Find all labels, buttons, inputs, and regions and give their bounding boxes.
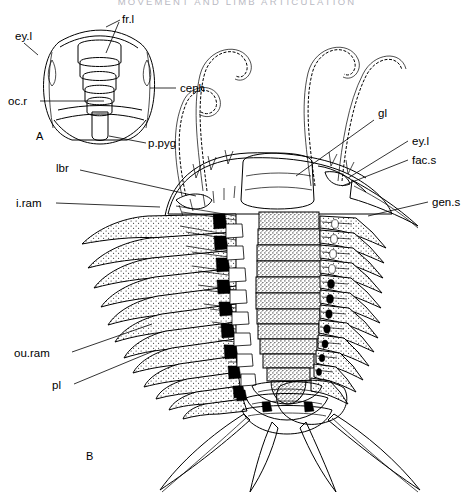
leader-iram: [56, 203, 160, 207]
fig-a-leaders: [24, 20, 176, 143]
label-fr-l: fr.l: [122, 13, 134, 25]
label-oc-r: oc.r: [8, 95, 27, 107]
leader-eyl-b: [348, 141, 408, 178]
plate-page: MOVEMENT AND LIMB ARTICULATION: [0, 0, 474, 499]
figure-plate: fr.l ey.l ceph oc.r p.pyg A: [0, 0, 474, 499]
cephalic-bristles: [193, 150, 354, 178]
label-fac-s: fac.s: [412, 154, 437, 166]
leader-gl: [296, 120, 374, 176]
figure-b-id: B: [86, 450, 93, 462]
figure-a: fr.l ey.l ceph oc.r p.pyg A: [8, 13, 205, 149]
left-appendage-field: [82, 186, 256, 419]
right-appendage-field: [311, 216, 386, 404]
figure-a-id: A: [36, 130, 44, 142]
label-pl: pl: [52, 379, 61, 391]
label-lbr: lbr: [56, 162, 69, 174]
leader-frl: [106, 20, 120, 27]
leader-eyl: [24, 43, 38, 55]
label-ey-l: ey.l: [15, 30, 32, 42]
label-i-ram: i.ram: [16, 197, 42, 209]
leader-frl-2: [106, 22, 119, 53]
fig-a-glabella-frontal-lobe: [78, 40, 121, 116]
leader-facs: [342, 160, 408, 186]
leader-gens: [368, 202, 428, 216]
label-p-pyg: p.pyg: [148, 137, 176, 149]
label-gl: gl: [378, 107, 387, 119]
label-ou-ram: ou.ram: [14, 347, 50, 359]
fig-b-eye-lobe-right: [325, 172, 350, 186]
fig-a-eye-lobes: [48, 60, 151, 86]
label-gen-s: gen.s: [432, 196, 460, 208]
leader-lbr: [80, 170, 196, 196]
axial-lobe: [256, 212, 321, 404]
label-ey-l-b: ey.l: [412, 135, 429, 147]
figure-b: lbr i.ram ou.ram pl gl ey.l fac.s gen.s …: [14, 47, 460, 492]
fig-a-occipital-ring: [56, 106, 144, 121]
right-limb-segments: [311, 216, 386, 404]
